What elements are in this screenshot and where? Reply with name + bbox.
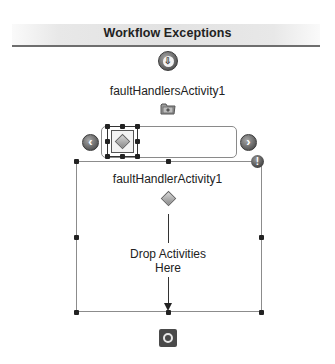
resize-handle[interactable] (74, 310, 79, 315)
resize-handle[interactable] (105, 124, 110, 129)
arrow-down-icon (164, 303, 172, 311)
drop-zone[interactable]: Drop Activities Here (118, 247, 218, 275)
connector-line (168, 277, 169, 304)
resize-handle[interactable] (120, 154, 125, 159)
warning-icon[interactable]: ! (251, 155, 264, 168)
folder-icon (160, 101, 176, 114)
arrow-down-icon: ⇩ (163, 56, 174, 67)
page-title: Workflow Exceptions (0, 26, 335, 40)
chevron-left-icon: ‹ (88, 135, 92, 148)
resize-handle[interactable] (105, 154, 110, 159)
end-circle-icon (163, 333, 173, 343)
resize-handle[interactable] (259, 235, 264, 240)
resize-handle[interactable] (105, 139, 110, 144)
scroll-right-button[interactable]: › (240, 134, 257, 151)
fault-handler-diamond-icon (115, 134, 131, 150)
resize-handle[interactable] (135, 124, 140, 129)
scroll-left-button[interactable]: ‹ (82, 134, 99, 151)
fault-handler-activity-label[interactable]: faultHandlerActivity1 (0, 172, 335, 186)
drop-text-line2: Here (118, 261, 218, 275)
resize-handle[interactable] (74, 159, 79, 164)
drop-text-line1: Drop Activities (118, 247, 218, 261)
fault-handler-diamond-icon (161, 191, 177, 207)
resize-handle[interactable] (74, 235, 79, 240)
connector-line (168, 214, 169, 243)
start-connector-button[interactable]: ⇩ (158, 51, 178, 71)
fault-handler-icon-wrap (163, 193, 174, 204)
resize-handle[interactable] (166, 159, 171, 164)
fault-handler-thumbnail[interactable] (111, 130, 134, 153)
resize-handle[interactable] (135, 139, 140, 144)
chevron-right-icon: › (246, 135, 250, 148)
end-connector-button[interactable] (159, 329, 177, 347)
resize-handle[interactable] (135, 154, 140, 159)
resize-handle[interactable] (259, 310, 264, 315)
resize-handle[interactable] (120, 124, 125, 129)
fault-handlers-activity-label[interactable]: faultHandlersActivity1 (0, 84, 335, 98)
